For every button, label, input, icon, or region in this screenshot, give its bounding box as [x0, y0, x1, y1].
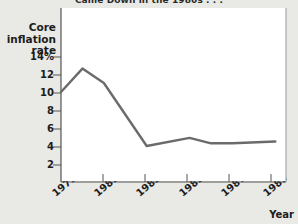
plot-background [61, 8, 286, 181]
chart-container: Came Down in the 1980s . . . Core inflat… [0, 0, 298, 224]
y-axis-ticks [53, 57, 61, 165]
chart-plot-area [0, 0, 298, 224]
